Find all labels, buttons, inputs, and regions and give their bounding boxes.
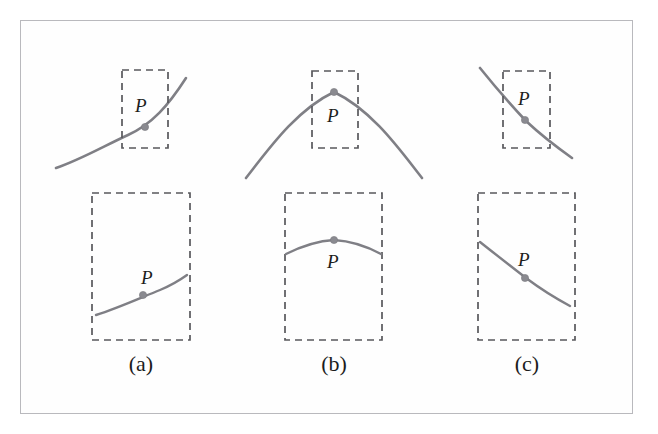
panel-a-top-point-dot [141, 123, 148, 130]
panel-label-a: (a) [129, 351, 153, 376]
panel-a: P P (a) [56, 70, 190, 376]
panel-c-bottom-point-dot [521, 274, 528, 281]
panel-a-top-point-label: P [134, 95, 147, 116]
panel-a-top: P [56, 70, 186, 168]
panel-a-bottom-point-dot [139, 291, 146, 298]
panel-b-top-point-label: P [326, 105, 339, 126]
panel-a-top-curve [56, 78, 186, 168]
panel-c-top-curve [480, 68, 572, 158]
panel-c-top-point-dot [521, 116, 528, 123]
panel-c: P P (c) [478, 68, 575, 376]
panel-b-bottom: P [285, 193, 382, 340]
panel-c-top-point-label: P [517, 88, 530, 109]
panel-a-bottom-point-label: P [140, 267, 153, 288]
panel-b: P P (b) [246, 71, 422, 376]
panel-b-bottom-point-dot [330, 236, 337, 243]
figure-root: P P (a) P [0, 0, 658, 434]
panel-b-top: P [246, 71, 422, 178]
panel-b-bottom-point-label: P [326, 251, 339, 272]
panel-c-bottom-point-label: P [517, 249, 530, 270]
panel-label-c: (c) [515, 351, 539, 376]
panel-c-top: P [480, 68, 572, 158]
panel-b-top-point-dot [330, 88, 337, 95]
panel-c-bottom: P [478, 193, 575, 340]
panel-label-b: (b) [321, 351, 347, 376]
figure-canvas: P P (a) P [0, 0, 658, 434]
panel-a-bottom: P [92, 193, 190, 340]
